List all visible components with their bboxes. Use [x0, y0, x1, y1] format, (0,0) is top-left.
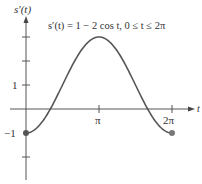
chart: s′(t) t s′(t) = 1 − 2 cos t, 0 ≤ t ≤ 2π … — [0, 0, 202, 184]
x-axis-arrow-icon — [188, 107, 195, 112]
x-axis-label: t — [197, 103, 200, 114]
tick-label-1: 1 — [12, 79, 18, 91]
endpoint-start — [23, 130, 29, 136]
endpoint-end — [169, 130, 175, 136]
y-axis-label: s′(t) — [14, 3, 31, 16]
y-axis-arrow-icon — [24, 16, 29, 23]
tick-label-pi: π — [95, 114, 101, 126]
equation-label: s′(t) = 1 − 2 cos t, 0 ≤ t ≤ 2π — [48, 20, 166, 32]
tick-label-2pi: 2π — [163, 114, 175, 126]
tick-label-neg1: −1 — [4, 127, 16, 139]
